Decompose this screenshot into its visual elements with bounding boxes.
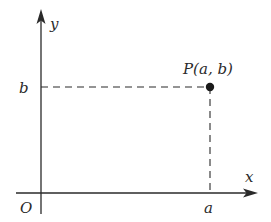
origin-label: O <box>20 199 32 217</box>
y-coordinate-label: b <box>19 79 29 97</box>
coordinate-diagram: y x O a b P(a, b) <box>0 0 271 222</box>
y-axis-label: y <box>49 15 59 33</box>
x-axis-label: x <box>245 168 254 186</box>
point-p <box>206 83 214 91</box>
point-label: P(a, b) <box>182 60 233 78</box>
x-coordinate-label: a <box>204 199 213 217</box>
